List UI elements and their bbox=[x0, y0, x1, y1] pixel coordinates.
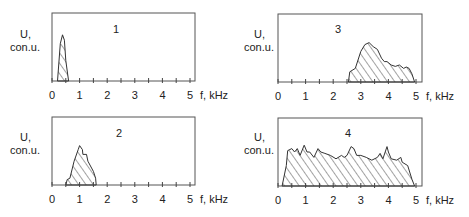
x-tick-label: 2 bbox=[330, 90, 336, 102]
x-tick-label: 0 bbox=[49, 193, 55, 205]
x-tick-label: 5 bbox=[187, 193, 193, 205]
x-tick-label: 1 bbox=[303, 194, 309, 206]
y-axis-label: U, bbox=[254, 131, 265, 143]
y-axis-label: U, bbox=[20, 28, 31, 40]
x-tick-label: 5 bbox=[413, 194, 419, 206]
x-axis-label: f, kHz bbox=[200, 89, 228, 101]
panel-1: U, con.u. 1 f, kHz 012345 bbox=[10, 13, 228, 101]
y-axis-label: U, bbox=[254, 28, 265, 40]
x-tick-label: 2 bbox=[104, 89, 110, 101]
panel-2: U, con.u. 2 f, kHz 012345 bbox=[10, 117, 228, 205]
x-tick-label: 1 bbox=[303, 90, 309, 102]
x-tick-label: 4 bbox=[385, 194, 391, 206]
spectra-figure: U, con.u. 1 f, kHz 012345 U, con.u. 2 f,… bbox=[0, 0, 469, 217]
x-tick-label: 4 bbox=[159, 89, 165, 101]
x-tick-label: 2 bbox=[104, 193, 110, 205]
x-tick-label: 3 bbox=[132, 193, 138, 205]
x-tick-label: 4 bbox=[159, 193, 165, 205]
y-axis-label: con.u. bbox=[244, 144, 274, 156]
y-axis-label: U, bbox=[20, 131, 31, 143]
spectrum-area bbox=[58, 35, 69, 81]
x-axis-label: f, kHz bbox=[200, 193, 228, 205]
x-tick-label: 5 bbox=[187, 89, 193, 101]
x-tick-label: 2 bbox=[330, 194, 336, 206]
x-tick-label: 3 bbox=[132, 89, 138, 101]
x-tick-label: 4 bbox=[385, 90, 391, 102]
x-tick-label: 3 bbox=[358, 90, 364, 102]
x-axis-label: f, kHz bbox=[426, 194, 454, 206]
y-axis-label: con.u. bbox=[244, 41, 274, 53]
spectrum-area bbox=[348, 43, 414, 82]
panel-number: 2 bbox=[116, 127, 122, 139]
x-tick-label: 0 bbox=[49, 89, 55, 101]
spectrum-area bbox=[66, 146, 96, 185]
y-axis-label: con.u. bbox=[10, 41, 40, 53]
panel-4: U, con.u. 4 f, kHz 012345 bbox=[244, 118, 454, 206]
x-tick-label: 0 bbox=[275, 90, 281, 102]
x-tick-label: 1 bbox=[77, 89, 83, 101]
x-tick-label: 3 bbox=[358, 194, 364, 206]
panel-3: U, con.u. 3 f, kHz 012345 bbox=[244, 14, 454, 102]
x-axis-label: f, kHz bbox=[426, 90, 454, 102]
x-tick-label: 0 bbox=[275, 194, 281, 206]
panel-number: 1 bbox=[113, 23, 119, 35]
spectrum-area bbox=[282, 145, 415, 186]
x-tick-label: 5 bbox=[413, 90, 419, 102]
panel-number: 4 bbox=[345, 127, 351, 139]
y-axis-label: con.u. bbox=[10, 144, 40, 156]
plot-frame bbox=[52, 13, 195, 81]
x-tick-label: 1 bbox=[77, 193, 83, 205]
panel-number: 3 bbox=[335, 23, 341, 35]
